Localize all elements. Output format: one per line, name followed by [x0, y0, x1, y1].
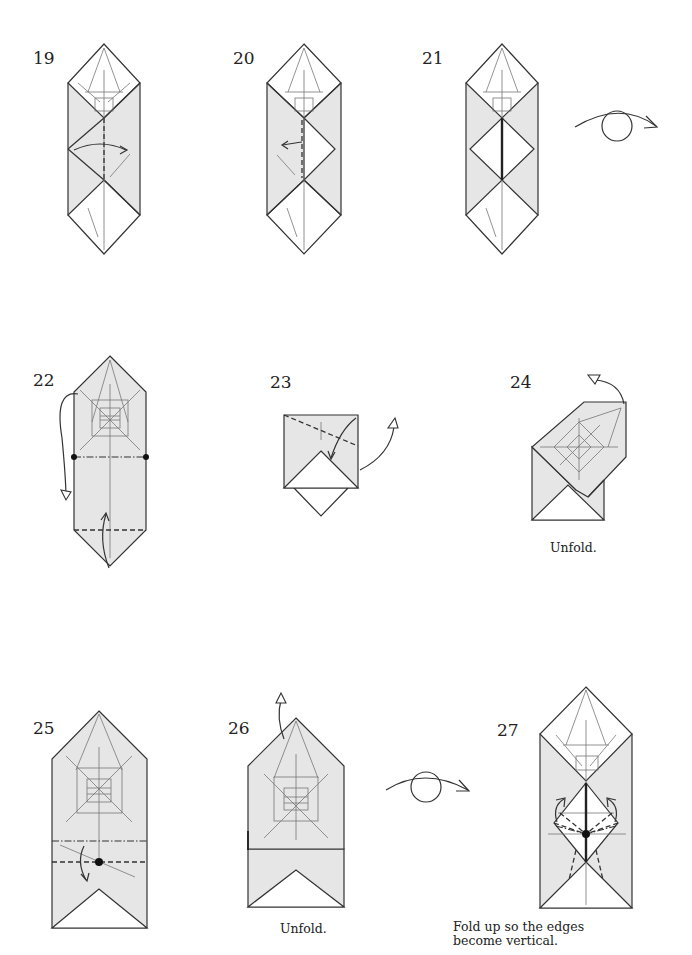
- turn-over-symbol-26: [380, 760, 480, 820]
- step-23: 23: [260, 330, 420, 530]
- step-22-diagram: [0, 320, 230, 580]
- step-24-diagram: [500, 330, 692, 530]
- caption-line-2: become vertical.: [453, 934, 584, 948]
- step-25: 25: [0, 690, 190, 950]
- step-21-diagram: [410, 0, 692, 260]
- step-27-diagram: [490, 680, 692, 910]
- step-25-diagram: [0, 690, 190, 950]
- step-caption: Unfold.: [550, 541, 597, 555]
- step-caption: Fold up so the edges become vertical.: [453, 920, 584, 948]
- step-26: 26 Unfold.: [210, 690, 360, 955]
- turn-over-icon: [380, 760, 480, 820]
- step-27: 27 Fold up so the edges become vertical.: [490, 680, 692, 955]
- turn-over-icon: [575, 111, 657, 141]
- step-19: 19: [0, 0, 230, 260]
- step-24: 24 Unfold.: [500, 330, 692, 580]
- step-22: 22: [0, 320, 230, 580]
- step-caption: Unfold.: [280, 922, 327, 936]
- step-19-diagram: [0, 0, 230, 260]
- step-20: 20: [225, 0, 425, 260]
- step-26-diagram: [210, 690, 360, 955]
- caption-line-1: Fold up so the edges: [453, 920, 584, 934]
- step-20-diagram: [225, 0, 425, 260]
- step-21: 21: [410, 0, 692, 260]
- step-23-diagram: [260, 330, 420, 530]
